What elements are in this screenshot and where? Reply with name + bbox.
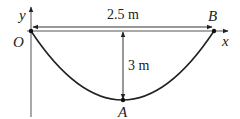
point-a-label: A — [117, 104, 128, 119]
point-b — [212, 29, 216, 33]
sag-label: 3 m — [128, 58, 150, 73]
point-o — [29, 29, 33, 33]
cable-diagram: y O B x A 2.5 m 3 m — [0, 0, 240, 119]
x-axis-label: x — [221, 33, 229, 49]
y-axis-label: y — [17, 7, 26, 23]
origin-label: O — [13, 34, 24, 50]
point-b-label: B — [208, 8, 217, 24]
span-label: 2.5 m — [107, 7, 139, 22]
point-a — [121, 98, 125, 102]
